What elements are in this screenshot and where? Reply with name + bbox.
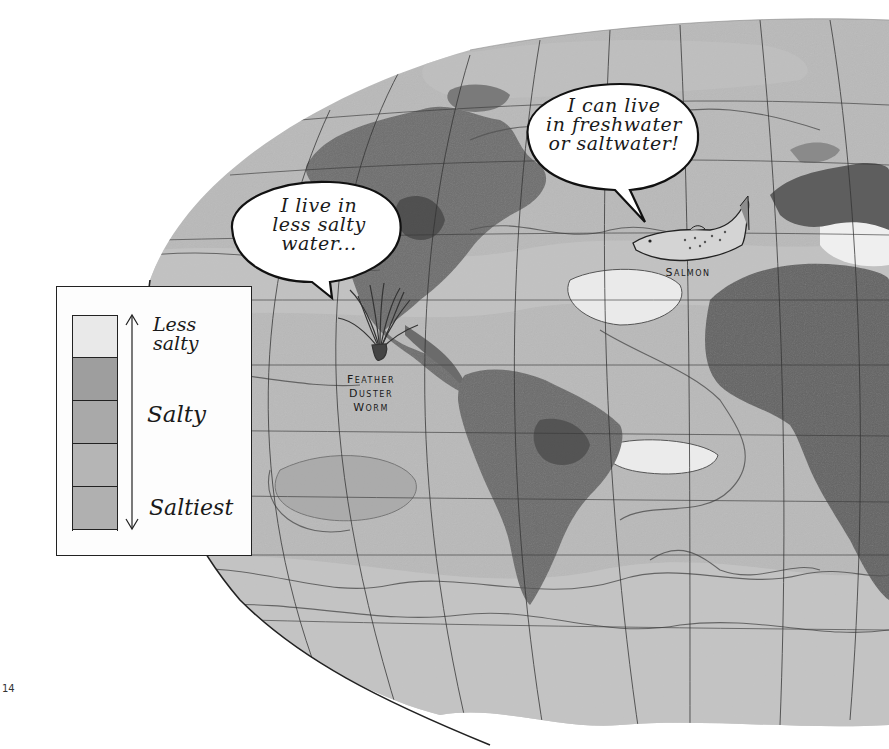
- label-line: Duster: [330, 387, 412, 401]
- legend-label-saltiest: Saltiest: [149, 497, 233, 519]
- salmon-label: Salmon: [648, 266, 728, 280]
- label-line: Feather: [330, 373, 412, 387]
- swatch-less-salty: [73, 315, 117, 358]
- legend-label-less-salty: Less salty: [153, 315, 199, 353]
- bubble-line: or saltwater!: [534, 134, 694, 153]
- feather-duster-worm-label: Feather Duster Worm: [330, 373, 412, 415]
- swatch-salty-2: [73, 401, 117, 444]
- page-number: 14: [2, 683, 15, 694]
- legend-label-salty: Salty: [147, 403, 206, 426]
- worm-bubble-text: I live in less salty water...: [240, 196, 398, 253]
- swatch-salty-3: [73, 444, 117, 487]
- salinity-legend: Less salty Salty Saltiest: [56, 286, 252, 556]
- legend-label-line: salty: [153, 334, 199, 353]
- swatch-saltiest: [73, 487, 117, 530]
- legend-swatch-column: [72, 315, 118, 531]
- salmon-bubble-text: I can live in freshwater or saltwater!: [534, 96, 694, 153]
- label-line: Worm: [330, 401, 412, 415]
- swatch-salty-1: [73, 358, 117, 401]
- double-arrow-icon: [125, 313, 139, 531]
- bubble-line: water...: [240, 234, 398, 253]
- label-line: Salmon: [648, 266, 728, 280]
